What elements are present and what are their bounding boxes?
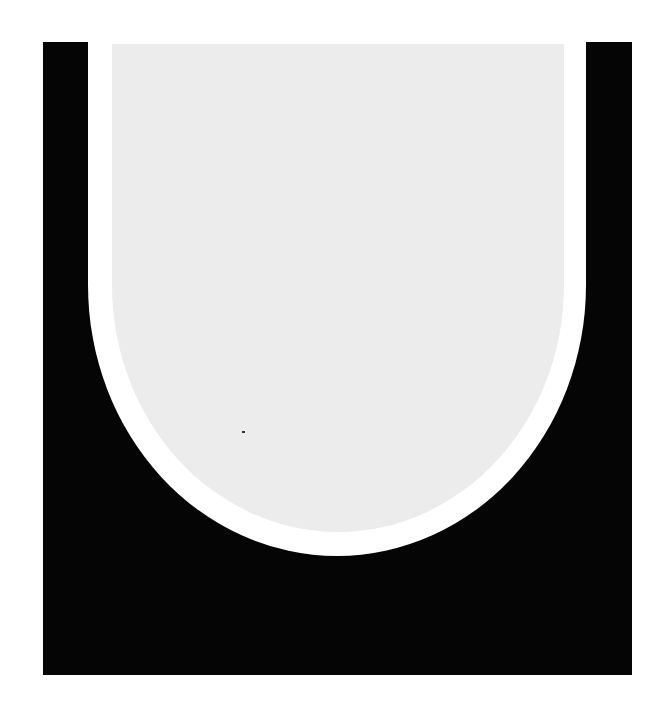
u-shape-graphic (0, 0, 663, 707)
grey-inner-panel (112, 44, 564, 532)
speck (242, 431, 245, 433)
